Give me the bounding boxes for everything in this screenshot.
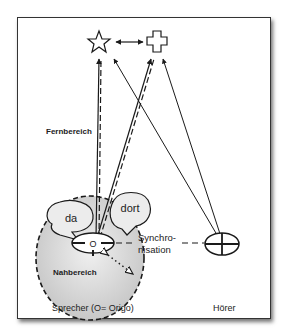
- listener-label: Hörer: [213, 303, 236, 313]
- cross-icon: [147, 31, 167, 52]
- bubble-da-text: da: [65, 212, 78, 224]
- origo-label: O: [89, 239, 96, 249]
- near-zone-label: Nahbereich: [53, 268, 97, 277]
- star-icon: [88, 31, 110, 52]
- far-zone-label: Fernbereich: [46, 127, 92, 136]
- synchronisation-label-2: nisation: [138, 244, 171, 255]
- speaker-label: Sprecher (O= Origo): [52, 303, 134, 313]
- deixis-diagram: da dort O Synchro- nisation Fernbereich …: [0, 0, 288, 335]
- synchronisation-label-1: Synchro-: [138, 232, 176, 243]
- listener-ellipse: [205, 233, 239, 255]
- bubble-dort-text: dort: [121, 202, 140, 214]
